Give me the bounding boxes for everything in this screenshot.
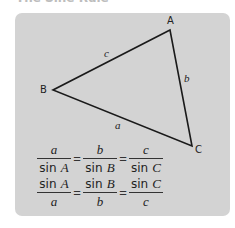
sine-rule-formula-sides: a sin A = b sin B = c sin C	[37, 143, 163, 174]
sine-rule-formula-angles: sin A a = sin B b = sin C c	[37, 177, 163, 208]
fraction-sin-b-over-b: sin B b	[83, 177, 117, 208]
fraction-c-over-sin-c: c sin C	[129, 143, 163, 174]
sin-label: sin	[39, 177, 56, 191]
denominator: b	[97, 195, 104, 208]
equals-sign: =	[117, 151, 129, 166]
equals-sign: =	[117, 185, 129, 200]
sin-label: sin	[131, 177, 148, 191]
fraction-bar	[37, 192, 71, 193]
angle-var: C	[152, 160, 161, 175]
numerator: b	[97, 143, 104, 156]
sin-label: sin	[85, 161, 102, 175]
vertex-label-c: C	[195, 144, 202, 155]
side-label-b: b	[184, 72, 190, 84]
angle-var: A	[61, 160, 69, 175]
sin-label: sin	[131, 161, 148, 175]
fraction-bar	[83, 158, 117, 159]
sin-label: sin	[39, 161, 56, 175]
equals-sign: =	[71, 185, 83, 200]
fraction-sin-c-over-c: sin C c	[129, 177, 163, 208]
fraction-sin-a-over-a: sin A a	[37, 177, 71, 208]
fraction-bar	[129, 192, 163, 193]
angle-var: B	[107, 176, 115, 191]
angle-var: C	[152, 176, 161, 191]
numerator: a	[51, 143, 58, 156]
equals-sign: =	[71, 151, 83, 166]
side-label-a: a	[115, 119, 121, 131]
fraction-bar	[37, 158, 71, 159]
denominator: a	[51, 195, 58, 208]
fraction-a-over-sin-a: a sin A	[37, 143, 71, 174]
numerator: c	[143, 143, 149, 156]
angle-var: A	[61, 176, 69, 191]
vertex-label-b: B	[40, 84, 47, 95]
denominator: c	[143, 195, 149, 208]
fraction-b-over-sin-b: b sin B	[83, 143, 117, 174]
angle-var: B	[107, 160, 115, 175]
vertex-label-a: A	[167, 15, 174, 26]
fraction-bar	[83, 192, 117, 193]
side-label-c: c	[104, 47, 109, 59]
sin-label: sin	[85, 177, 102, 191]
fraction-bar	[129, 158, 163, 159]
